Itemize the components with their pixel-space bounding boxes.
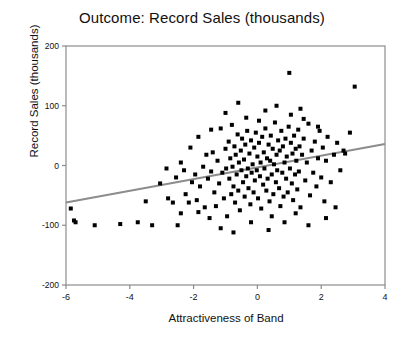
data-point [302, 117, 306, 121]
data-point [255, 155, 259, 159]
data-point [260, 135, 264, 139]
data-point [233, 201, 237, 205]
data-point [313, 140, 317, 144]
axis-frame [66, 46, 385, 285]
data-point [220, 171, 224, 175]
data-point [321, 146, 325, 150]
data-point [196, 210, 200, 214]
data-point [263, 126, 267, 130]
data-point [245, 129, 249, 133]
data-point [280, 171, 284, 175]
x-tick-label: -6 [62, 292, 70, 302]
data-point [193, 172, 197, 176]
data-point [176, 223, 180, 227]
data-point [306, 122, 310, 126]
data-point [316, 125, 320, 129]
data-point [273, 120, 277, 124]
y-tick-label: 200 [45, 41, 59, 51]
regression-line [66, 144, 385, 203]
data-point [196, 135, 200, 139]
data-point [289, 141, 293, 145]
data-point [283, 220, 287, 224]
data-point [118, 222, 122, 226]
data-point [322, 199, 326, 203]
data-point [267, 228, 271, 232]
data-point [288, 166, 292, 170]
data-point [203, 205, 207, 209]
data-point [249, 220, 253, 224]
data-point [246, 166, 250, 170]
data-point [188, 146, 192, 150]
data-point [254, 131, 258, 135]
data-point [225, 214, 229, 218]
data-point [224, 147, 228, 151]
data-point [268, 159, 272, 163]
x-axis-ticks: -6-4-2024 [62, 285, 388, 302]
data-point [204, 153, 208, 157]
data-point [262, 166, 266, 170]
data-point [230, 123, 234, 127]
data-point [231, 230, 235, 234]
data-point [290, 152, 294, 156]
data-point [244, 174, 248, 178]
data-point [222, 196, 226, 200]
x-tick-label: 0 [255, 292, 260, 302]
data-point [284, 177, 288, 181]
trend-line-segment [66, 144, 385, 203]
data-point [289, 113, 293, 117]
data-point [353, 85, 357, 89]
data-point [295, 187, 299, 191]
data-point [241, 180, 245, 184]
data-point [269, 134, 273, 138]
data-point [324, 159, 328, 163]
scatter-chart: Outcome: Record Sales (thousands) Record… [0, 0, 404, 343]
data-point [287, 71, 291, 75]
data-point [278, 204, 282, 208]
data-point [234, 153, 238, 157]
data-point [310, 149, 314, 153]
data-point [227, 177, 231, 181]
data-point [296, 128, 300, 132]
data-point [257, 119, 261, 123]
data-point [282, 195, 286, 199]
data-point [209, 169, 213, 173]
data-point [184, 192, 188, 196]
data-point [292, 134, 296, 138]
data-point [211, 150, 215, 154]
data-point [277, 186, 281, 190]
data-point [275, 104, 279, 108]
data-point [239, 168, 243, 172]
data-point [291, 198, 295, 202]
data-point [236, 189, 240, 193]
data-point [308, 193, 312, 197]
data-point [251, 162, 255, 166]
data-point [281, 144, 285, 148]
data-point [324, 216, 328, 220]
data-point [335, 141, 339, 145]
data-point [298, 205, 302, 209]
data-point [252, 190, 256, 194]
data-point [259, 207, 263, 211]
data-point [348, 131, 352, 135]
data-point [305, 161, 309, 165]
data-point [209, 128, 213, 132]
data-point [286, 190, 290, 194]
data-point [329, 180, 333, 184]
data-point [261, 183, 265, 187]
data-point [263, 109, 267, 113]
data-point [195, 198, 199, 202]
data-point [275, 153, 279, 157]
data-point [216, 159, 220, 163]
data-point [255, 168, 259, 172]
data-point [294, 159, 298, 163]
data-point [287, 125, 291, 129]
data-point [294, 147, 298, 151]
x-tick-label: -2 [190, 292, 198, 302]
data-point [212, 190, 216, 194]
data-point [250, 171, 254, 175]
data-point [338, 168, 342, 172]
data-point [190, 180, 194, 184]
data-point [334, 205, 338, 209]
data-point [264, 189, 268, 193]
data-point [294, 211, 298, 215]
